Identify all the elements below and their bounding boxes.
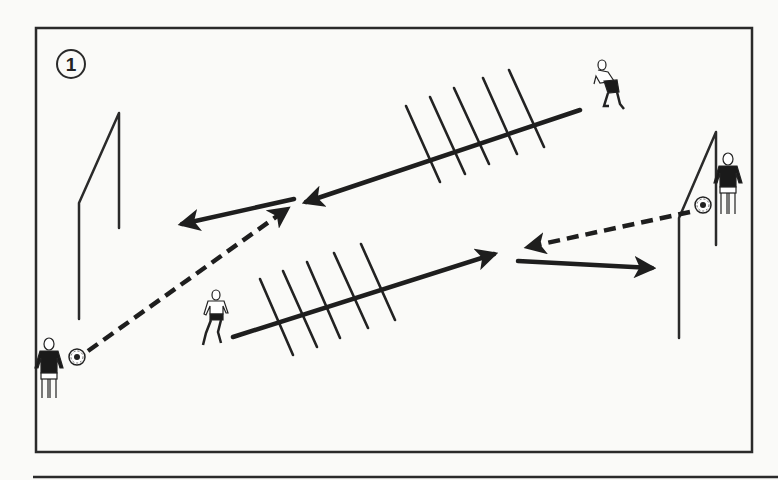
lower-runner-icon [203,290,228,345]
step-number: 1 [66,54,77,75]
left-goal [79,113,119,319]
ladder-rung [260,279,293,355]
right-goalkeeper-icon [714,153,742,214]
right-goal [679,132,716,338]
ladder-rung [361,244,395,320]
ladder-rung [509,70,544,147]
ladder-rung [430,97,465,174]
ladder-rung [334,253,368,328]
upper-runner-icon [594,60,624,109]
lower-ladder [260,244,395,355]
run-upper-short-arrow [182,199,294,224]
ladder-rung [283,271,317,347]
ladder-rung [307,262,340,338]
upper-ladder [406,70,544,182]
field-frame [36,28,752,452]
ladder-rung [406,106,440,182]
left-goalkeeper-icon [35,338,63,398]
run-lower-ladder-arrow [233,254,494,337]
pass-right-to-center-arrow [528,212,690,247]
run-lower-short-arrow [518,261,652,268]
right-ball-icon [695,197,711,213]
step-number-badge: 1 [57,50,85,78]
drill-diagram: 1 [0,0,778,480]
left-ball-icon [69,349,85,365]
